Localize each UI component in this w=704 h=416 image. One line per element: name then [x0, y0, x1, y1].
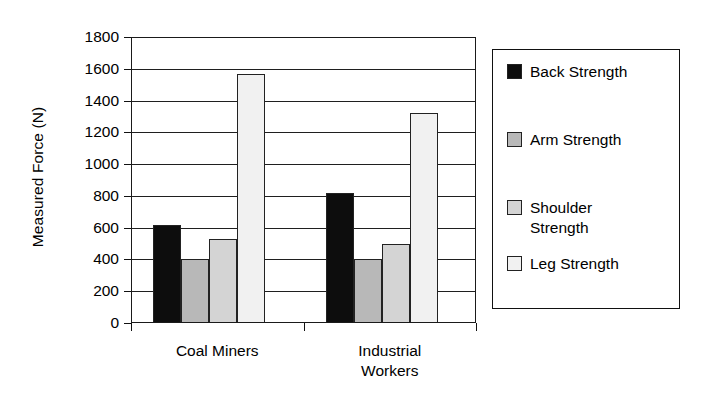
- y-tick-mark: [124, 323, 131, 324]
- legend-item: Arm Strength: [507, 130, 621, 150]
- bar: [153, 225, 181, 323]
- legend-swatch-icon: [507, 64, 522, 79]
- bar: [181, 259, 209, 323]
- y-axis-title: Measured Force (N): [29, 47, 47, 307]
- y-tick-label: 1200: [59, 123, 119, 141]
- y-tick-mark: [124, 291, 131, 292]
- legend-label: Back Strength: [530, 62, 627, 82]
- legend-label: Leg Strength: [530, 254, 619, 274]
- legend-items: Back StrengthArm StrengthShoulder Streng…: [507, 62, 671, 300]
- y-tick-mark: [124, 37, 131, 38]
- bar: [209, 239, 237, 323]
- bar-series-group: [131, 37, 476, 323]
- y-tick-label: 0: [59, 314, 119, 332]
- y-tick-label: 800: [59, 187, 119, 205]
- bar: [382, 244, 410, 323]
- y-tick-label: 1800: [59, 28, 119, 46]
- bar: [326, 193, 354, 323]
- bar: [354, 259, 382, 323]
- x-tick-mark: [304, 323, 305, 331]
- legend-swatch-icon: [507, 200, 522, 215]
- y-tick-label: 600: [59, 219, 119, 237]
- bar: [237, 74, 265, 323]
- legend-label: Arm Strength: [530, 130, 621, 150]
- legend-label: Shoulder Strength: [530, 198, 592, 238]
- bar-chart-figure: Measured Force (N) 020040060080010001200…: [0, 0, 704, 416]
- x-tick-label: Coal Miners: [142, 341, 292, 361]
- y-tick-mark: [124, 132, 131, 133]
- legend-item: Leg Strength: [507, 254, 619, 274]
- plot-area: 020040060080010001200140016001800 Coal M…: [131, 37, 476, 323]
- y-tick-label: 400: [59, 250, 119, 268]
- x-tick-mark: [131, 323, 132, 331]
- x-tick-label: Industrial Workers: [315, 341, 465, 382]
- y-tick-mark: [124, 228, 131, 229]
- legend-item: Shoulder Strength: [507, 198, 592, 238]
- y-tick-mark: [124, 164, 131, 165]
- y-tick-mark: [124, 196, 131, 197]
- y-tick-mark: [124, 69, 131, 70]
- y-tick-label: 200: [59, 282, 119, 300]
- y-tick-label: 1600: [59, 60, 119, 78]
- x-tick-mark: [476, 323, 477, 331]
- legend-swatch-icon: [507, 132, 522, 147]
- y-tick-label: 1400: [59, 92, 119, 110]
- chart-legend: Back StrengthArm StrengthShoulder Streng…: [492, 49, 680, 309]
- legend-item: Back Strength: [507, 62, 627, 82]
- bar: [410, 113, 438, 323]
- y-tick-label: 1000: [59, 155, 119, 173]
- y-tick-mark: [124, 259, 131, 260]
- y-tick-mark: [124, 101, 131, 102]
- legend-swatch-icon: [507, 256, 522, 271]
